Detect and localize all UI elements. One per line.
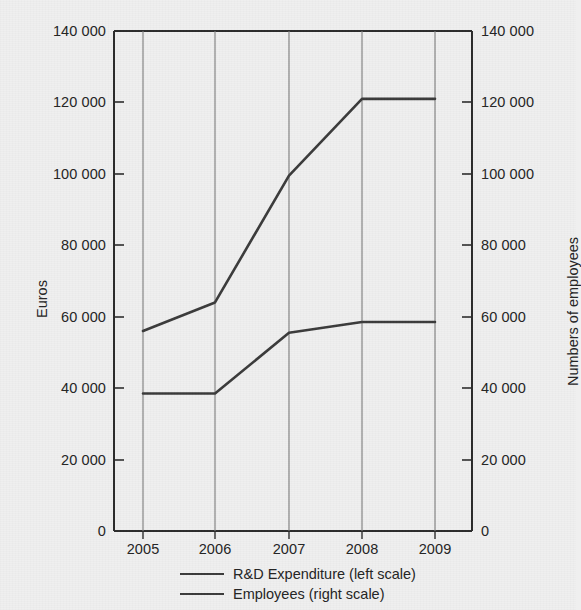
x-tick-label-2005: 2005 [113, 541, 173, 557]
right-tick-label-20000: 20 000 [481, 452, 526, 468]
x-tick-label-2007: 2007 [259, 541, 319, 557]
legend-item-employees[interactable]: Employees (right scale) [180, 586, 385, 602]
right-tick-label-140000: 140 000 [481, 23, 534, 39]
x-axis-ticks [143, 531, 435, 539]
left-tick-label-20000: 20 000 [22, 452, 106, 468]
right-tick-label-60000: 60 000 [481, 309, 526, 325]
left-tick-label-100000: 100 000 [22, 166, 106, 182]
left-axis-ticks [114, 102, 124, 460]
x-tick-label-2009: 2009 [405, 541, 465, 557]
left-tick-label-0: 0 [22, 523, 106, 539]
legend-swatch-employees [180, 593, 224, 595]
legend-swatch-rd-expenditure [180, 573, 224, 575]
x-tick-label-2006: 2006 [185, 541, 245, 557]
y-axis-title-euros: Euros [34, 280, 50, 318]
legend-label-employees: Employees (right scale) [233, 586, 385, 602]
x-tick-label-2008: 2008 [332, 541, 392, 557]
y2-axis-title-employees: Numbers of employees [565, 237, 581, 386]
right-axis-ticks [462, 102, 472, 460]
left-tick-label-120000: 120 000 [22, 94, 106, 110]
right-tick-label-0: 0 [481, 523, 489, 539]
left-tick-label-40000: 40 000 [22, 380, 106, 396]
right-tick-label-40000: 40 000 [481, 380, 526, 396]
plot-frame [114, 31, 472, 531]
legend-item-rd-expenditure[interactable]: R&D Expenditure (left scale) [180, 566, 416, 582]
right-tick-label-100000: 100 000 [481, 166, 534, 182]
right-tick-label-80000: 80 000 [481, 237, 526, 253]
left-tick-label-80000: 80 000 [22, 237, 106, 253]
left-tick-label-140000: 140 000 [22, 23, 106, 39]
chart-gridlines-vertical [143, 31, 435, 531]
right-tick-label-120000: 120 000 [481, 94, 534, 110]
legend-label-rd-expenditure: R&D Expenditure (left scale) [233, 566, 416, 582]
